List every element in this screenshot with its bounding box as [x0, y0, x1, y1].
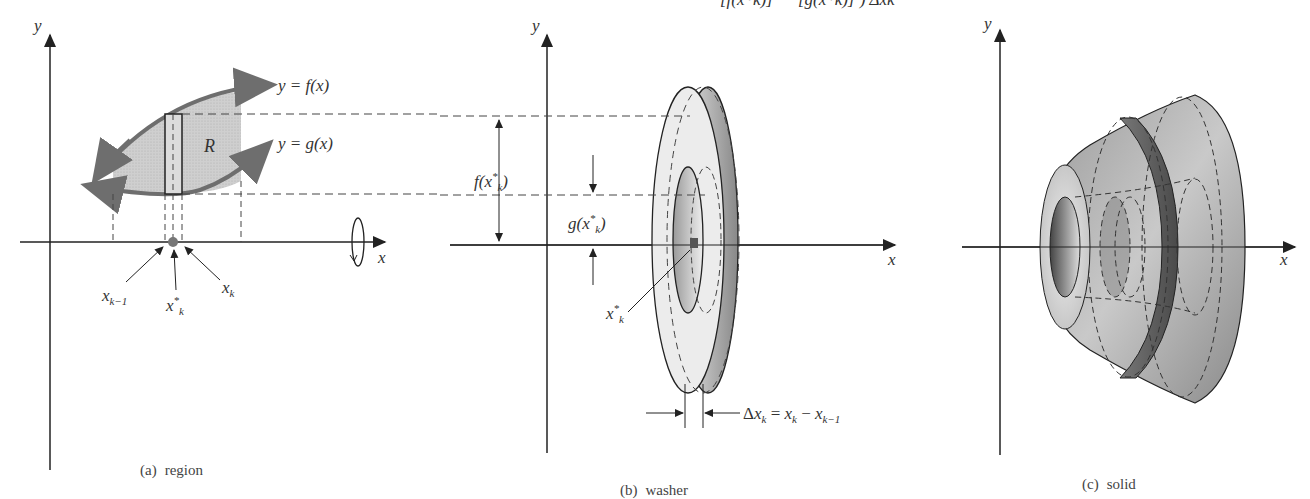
label-x-k: xk — [222, 278, 234, 299]
washer-hole — [673, 167, 703, 313]
label-y-equals-g: y = g(x) — [278, 134, 333, 154]
region-plot — [0, 0, 420, 497]
panel-washer: y x f(x*k) g(x*k) x*k Δxk = xk − xk−1 (b… — [440, 0, 920, 497]
y-axis-label: y — [34, 16, 42, 36]
y-axis-label: y — [984, 14, 992, 34]
caption-solid: (c)solid — [1082, 476, 1136, 493]
label-delta-x: Δxk = xk − xk−1 — [743, 404, 840, 425]
label-x-k-minus-1: xk−1 — [102, 286, 127, 307]
sample-point — [168, 237, 178, 247]
caption-region: (a)region — [140, 462, 203, 479]
solid-plot — [950, 0, 1310, 497]
panel-region: y x y = f(x) y = g(x) R xk−1 x*k xk (a)r… — [0, 0, 420, 497]
x-axis-label: x — [378, 248, 386, 268]
x-axis-label: x — [1280, 250, 1288, 270]
label-region-r: R — [204, 136, 215, 157]
caption-washer: (b)washer — [620, 482, 688, 499]
label-g-of-x-star: g(x*k) — [568, 212, 606, 235]
x-axis-label: x — [888, 250, 896, 270]
y-axis-label: y — [532, 16, 540, 36]
label-center-x-star: x*k — [606, 302, 624, 325]
label-y-equals-f: y = f(x) — [278, 76, 329, 96]
panel-solid: y x (c)solid — [950, 0, 1310, 497]
washer-plot — [440, 0, 920, 497]
label-x-star-k: x*k — [166, 294, 184, 317]
label-f-of-x-star: f(x*k) — [474, 170, 508, 193]
